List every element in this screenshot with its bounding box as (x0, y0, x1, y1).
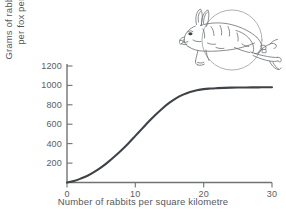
y-tick-label: 1000 (34, 80, 62, 90)
x-axis-title: Number of rabbits per square kilometre (0, 196, 286, 207)
y-tick-label: 400 (38, 139, 62, 149)
y-axis-title: Grams of rabbit eaten per fox per day (2, 0, 28, 78)
y-tick-marks (67, 66, 73, 163)
figure-container: 200 400 600 800 1000 1200 0 10 20 30 Num… (0, 0, 286, 218)
y-axis-title-line2: per fox per day (15, 0, 27, 45)
y-axis-title-line1: Grams of rabbit eaten (3, 0, 15, 60)
y-tick-label: 800 (38, 100, 62, 110)
y-tick-label: 1200 (34, 61, 62, 71)
y-tick-label: 600 (38, 119, 62, 129)
y-tick-label: 200 (38, 158, 62, 168)
x-tick-marks (67, 183, 272, 188)
data-curve (67, 87, 272, 182)
